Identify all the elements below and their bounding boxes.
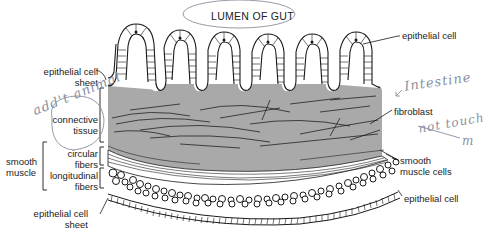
handwritten-note-trailing: m: [462, 134, 474, 148]
lumen-title: LUMEN OF GUT: [211, 10, 294, 22]
label-epithelial-cell-sheet-bottom-line2: sheet: [10, 219, 88, 230]
label-smooth-muscle-line1: smooth: [6, 156, 37, 167]
longitudinal-fibers-bracket: [100, 168, 104, 188]
label-connective-tissue-line2: tissue: [20, 125, 98, 136]
label-epithelial-cell-bottom: epithelial cell: [404, 193, 458, 204]
label-fibroblast: fibroblast: [394, 106, 433, 117]
label-smooth-muscle-line2: muscle: [6, 167, 36, 178]
epithelial-cell-sheet-bottom-leader: [100, 198, 108, 214]
circular-fibers-bracket: [100, 147, 104, 165]
label-longitudinal-fibers-line2: fibers: [20, 181, 98, 192]
label-smooth-muscle-cells-line2: muscle cells: [400, 166, 452, 177]
intestine-arrow: [396, 90, 402, 96]
label-epithelial-cell-sheet-bottom-line1: epithelial cell: [10, 208, 88, 219]
label-smooth-muscle-cells-line1: smooth: [400, 155, 431, 166]
label-epithelial-cell-sheet-top-line1: epithelial cell: [20, 66, 98, 77]
label-epithelial-cell-top: epithelial cell: [402, 30, 456, 41]
epithelial-cell-bottom-leader: [398, 190, 402, 196]
label-connective-tissue-line1: connective: [20, 114, 98, 125]
villi-epithelium: [108, 24, 380, 90]
